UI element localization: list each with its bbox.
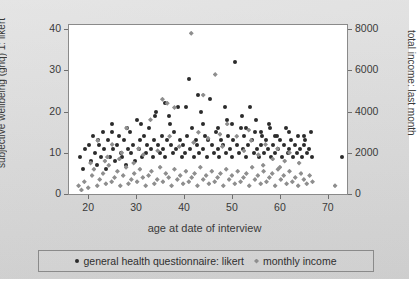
y-tick-right [348, 70, 352, 71]
data-point-income [95, 183, 100, 188]
data-point-income [146, 173, 151, 178]
data-point-ghq [271, 143, 275, 147]
data-point-ghq [266, 147, 270, 151]
y-tick-right [348, 153, 352, 154]
data-point-ghq [81, 167, 85, 171]
x-tick-label: 40 [164, 202, 204, 213]
data-point-income [290, 179, 295, 184]
data-point-ghq [307, 147, 311, 151]
data-point-income [301, 177, 306, 182]
data-point-income [132, 171, 137, 176]
data-point-ghq [197, 151, 201, 155]
data-point-ghq [255, 147, 259, 151]
data-point-ghq [111, 147, 115, 151]
data-point-ghq [99, 155, 103, 159]
data-point-ghq [224, 151, 228, 155]
data-point-ghq [212, 151, 216, 155]
data-point-ghq [185, 134, 189, 138]
data-point-ghq [181, 143, 185, 147]
data-point-ghq [131, 143, 135, 147]
data-point-ghq [223, 105, 227, 109]
x-tick-label: 50 [212, 202, 252, 213]
y-tick-left [64, 112, 68, 113]
data-point-income [217, 132, 222, 137]
data-point-ghq [172, 130, 176, 134]
x-tick [88, 195, 89, 199]
data-point-ghq [171, 151, 175, 155]
data-point-ghq [91, 134, 95, 138]
data-point-income [143, 183, 148, 188]
data-point-ghq [208, 97, 212, 101]
data-point-ghq [184, 105, 188, 109]
data-point-income [155, 177, 160, 182]
data-point-income [261, 163, 266, 168]
data-point-income [310, 179, 315, 184]
y-tick-left [64, 194, 68, 195]
y-tick-label-right: 8000 [355, 23, 378, 34]
data-point-income [121, 173, 126, 178]
data-point-ghq [113, 159, 117, 163]
y-tick-label-right: 2000 [355, 147, 378, 158]
data-point-income [281, 173, 286, 178]
data-point-income [221, 183, 226, 188]
data-point-ghq [93, 151, 97, 155]
data-point-ghq [115, 143, 119, 147]
data-point-income [195, 183, 200, 188]
data-point-ghq [190, 126, 194, 130]
data-point-income [247, 183, 252, 188]
data-point-ghq [187, 77, 191, 81]
data-point-income [264, 179, 269, 184]
data-point-ghq [104, 167, 108, 171]
data-point-ghq [259, 143, 263, 147]
data-point-income [152, 181, 157, 186]
data-point-ghq [216, 126, 220, 130]
data-point-ghq [303, 138, 307, 142]
data-point-ghq [117, 134, 121, 138]
data-point-ghq [195, 143, 199, 147]
data-point-ghq [273, 151, 277, 155]
data-point-income [196, 130, 201, 135]
y-tick-label-left: 10 [0, 147, 61, 158]
data-point-ghq [217, 155, 221, 159]
legend-item-ghq: general health questionnaire: likert [75, 255, 244, 267]
data-point-ghq [151, 155, 155, 159]
data-point-income [126, 181, 131, 186]
data-point-ghq [126, 147, 130, 151]
data-point-ghq [180, 155, 184, 159]
data-point-income [140, 175, 145, 180]
data-point-ghq [216, 147, 220, 151]
data-point-ghq [235, 143, 239, 147]
data-point-income [235, 169, 240, 174]
data-point-income [79, 187, 84, 192]
data-point-income [109, 179, 114, 184]
data-point-ghq [340, 155, 344, 159]
data-point-ghq [160, 134, 164, 138]
data-point-income [238, 179, 243, 184]
y-tick-right [348, 112, 352, 113]
data-point-ghq [226, 134, 230, 138]
data-point-income [101, 171, 106, 176]
data-point-ghq [196, 93, 200, 97]
data-point-ghq [254, 118, 258, 122]
data-point-income [86, 185, 91, 190]
data-point-income [160, 179, 165, 184]
data-point-income [224, 167, 229, 172]
data-point-income [252, 177, 257, 182]
data-point-income [225, 121, 230, 126]
data-point-ghq [252, 151, 256, 155]
data-point-income [333, 183, 338, 188]
data-point-income [102, 159, 107, 164]
data-point-ghq [145, 143, 149, 147]
data-point-income [175, 177, 180, 182]
data-point-income [287, 169, 292, 174]
x-tick [232, 195, 233, 199]
data-point-ghq [154, 110, 158, 114]
data-point-ghq [210, 143, 214, 147]
data-point-ghq [78, 155, 82, 159]
data-point-income [229, 173, 234, 178]
chart-page: subjective wellbeing (ghq) 1: likert tot… [0, 0, 417, 292]
y-tick-left [64, 29, 68, 30]
data-point-income [307, 173, 312, 178]
data-point-income [284, 181, 289, 186]
y-tick-right [348, 29, 352, 30]
